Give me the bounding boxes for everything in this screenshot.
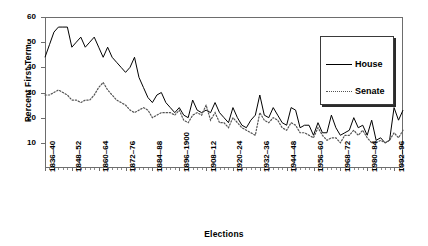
y-tick-mark [41,118,45,119]
x-tick-mark-minor [273,168,274,170]
x-tick-mark-minor [300,168,301,170]
y-tick-mark [41,17,45,18]
x-tick-mark [126,168,127,171]
x-tick-mark-minor [175,168,176,170]
x-tick-label: 1920–24 [236,141,244,172]
chart-legend: House Senate [320,36,394,105]
x-tick-mark-minor [381,168,382,170]
y-tick-label: 60 [10,13,36,21]
x-tick-label: 1848–52 [75,141,83,172]
x-tick-label: 1836–40 [49,141,57,172]
y-tick-mark [41,143,45,144]
x-tick-mark-minor [390,168,391,170]
x-tick-mark-minor [197,168,198,170]
x-tick-label: 1956–60 [317,141,325,172]
x-tick-label: 1860–64 [102,141,110,172]
x-tick-mark-minor [331,168,332,170]
x-tick-mark-minor [220,168,221,170]
x-tick-mark-minor [251,168,252,170]
x-tick-mark-minor [358,168,359,170]
legend-item-senate: Senate [321,82,393,100]
x-tick-label: 1968–72 [344,141,352,172]
x-tick-mark [314,168,315,171]
x-tick-mark-minor [278,168,279,170]
y-tick-mark [41,67,45,68]
x-tick-mark-minor [58,168,59,170]
legend-swatch-senate-line-icon [326,86,352,96]
x-tick-mark [72,168,73,171]
x-tick-mark-minor [112,168,113,170]
legend-label-senate: Senate [355,86,385,96]
x-tick-label: 1896–1900 [183,132,191,172]
x-tick-mark-minor [309,168,310,170]
x-tick-label: 1908–12 [210,141,218,172]
x-tick-mark [394,168,395,171]
x-tick-mark [45,168,46,171]
y-tick-label: 50 [10,38,36,46]
x-tick-mark-minor [282,168,283,170]
y-tick-label: 30 [10,89,36,97]
x-tick-mark-minor [67,168,68,170]
legend-label-house: House [355,59,383,69]
x-tick-mark-minor [354,168,355,170]
x-tick-mark-minor [224,168,225,170]
x-tick-label: 1932–36 [263,141,271,172]
y-tick-label: 10 [10,139,36,147]
x-tick-mark [233,168,234,171]
x-tick-mark-minor [327,168,328,170]
x-tick-label: 1944–48 [290,141,298,172]
x-tick-mark-minor [385,168,386,170]
x-tick-mark [99,168,100,171]
x-tick-mark-minor [202,168,203,170]
x-tick-label: 1872–76 [129,141,137,172]
x-tick-mark [287,168,288,171]
legend-swatch-house-line-icon [326,59,352,69]
x-tick-label: 1980–84 [371,141,379,172]
x-tick-mark [367,168,368,171]
x-tick-mark-minor [148,168,149,170]
x-tick-mark-minor [246,168,247,170]
y-tick-label: 40 [10,63,36,71]
y-tick-mark [41,42,45,43]
x-tick-mark [260,168,261,171]
x-tick-mark [179,168,180,171]
x-tick-mark-minor [363,168,364,170]
x-tick-mark [206,168,207,171]
x-tick-mark-minor [143,168,144,170]
x-tick-mark-minor [139,168,140,170]
x-tick-mark-minor [166,168,167,170]
x-tick-mark-minor [121,168,122,170]
x-tick-mark-minor [94,168,95,170]
x-tick-mark-minor [117,168,118,170]
x-tick-mark-minor [336,168,337,170]
x-tick-mark-minor [170,168,171,170]
x-tick-mark-minor [193,168,194,170]
x-tick-mark-minor [85,168,86,170]
x-axis-title: Elections [45,229,403,239]
y-tick-label: 20 [10,114,36,122]
x-tick-mark-minor [228,168,229,170]
x-tick-mark-minor [90,168,91,170]
x-tick-mark-minor [63,168,64,170]
x-tick-label: 1992–96 [398,141,406,172]
y-tick-mark [41,93,45,94]
x-tick-mark-minor [255,168,256,170]
x-tick-mark-minor [305,168,306,170]
chart-figure: Percent First Term 102030405060 1836–401… [0,0,428,246]
x-tick-mark [340,168,341,171]
x-tick-label: 1884–88 [156,141,164,172]
x-tick-mark [152,168,153,171]
legend-item-house: House [321,55,393,73]
